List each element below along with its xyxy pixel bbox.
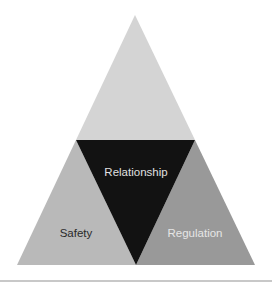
top-segment bbox=[76, 15, 195, 140]
safety-label: Safety bbox=[60, 227, 93, 239]
relationship-label: Relationship bbox=[104, 166, 167, 178]
triangle-diagram: Relationship Safety Regulation bbox=[0, 0, 272, 286]
regulation-label: Regulation bbox=[168, 227, 223, 239]
bottom-divider bbox=[0, 280, 272, 282]
